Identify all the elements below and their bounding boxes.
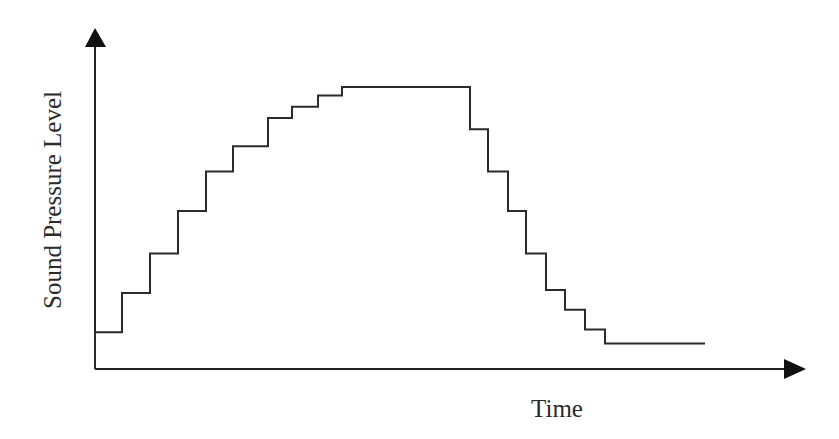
y-axis-label: Sound Pressure Level	[39, 91, 66, 309]
y-axis-arrow-icon	[85, 28, 106, 47]
y-axis	[85, 28, 106, 369]
x-axis	[95, 359, 806, 379]
step-chart: Sound Pressure Level Time	[0, 0, 839, 439]
x-axis-label: Time	[531, 395, 583, 422]
sound-pressure-step-line	[95, 87, 705, 369]
x-axis-arrow-icon	[784, 359, 806, 379]
